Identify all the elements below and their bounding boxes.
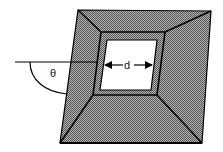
pyramid-pit-diagram: θ d bbox=[0, 0, 223, 152]
d-label: d bbox=[124, 59, 130, 71]
diagram-canvas: θ d bbox=[0, 0, 223, 152]
angle-arc bbox=[30, 62, 67, 94]
theta-label: θ bbox=[50, 67, 56, 79]
